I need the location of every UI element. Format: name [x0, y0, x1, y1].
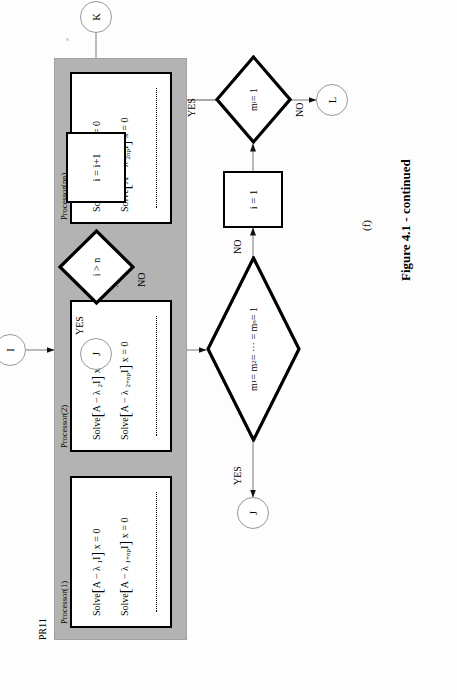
processor-np-vertical-dots [156, 88, 157, 208]
figure-page: PR11 Processor(1) Solve[A − λ 1I] x = 0 … [0, 0, 457, 700]
edge-label-mi-no: NO [294, 103, 305, 117]
processor-2-vertical-dots [156, 316, 157, 436]
connector-entry-I: I [0, 334, 26, 366]
decision-mi-equals-one: mi = 1 [215, 55, 292, 144]
process-box-init: i = 1 [223, 171, 283, 228]
edge-label-mi-yes: YES [186, 98, 197, 117]
processor-box-2: Processor(2) Solve[A − λ 2I] x = 0 Solve… [70, 300, 172, 452]
connector-exit-L: L [316, 84, 348, 116]
processor-2-equation-2: Solve[A − λ 2+npI] x = 0 [116, 342, 132, 440]
processor-title-2: Processor(2) [59, 405, 69, 448]
edge-label-i-gt-n-yes: YES [74, 316, 85, 335]
panel-label-pr11: PR11 [38, 618, 48, 640]
processor-1-vertical-dots [156, 492, 157, 612]
processor-1-equation-2: Solve[A − λ 1+npI] x = 0 [116, 518, 132, 616]
processor-box-1: Processor(1) Solve[A − λ 1I] x = 0 Solve… [70, 476, 172, 628]
connector-entry-K: K [80, 1, 112, 33]
edge-label-i-gt-n-no: NO [136, 273, 147, 287]
decision-i-greater-n: i > n [58, 229, 135, 305]
rotated-figure-canvas: PR11 Processor(1) Solve[A − λ 1I] x = 0 … [0, 0, 457, 700]
edge-label-big-diamond-no: NO [232, 240, 243, 254]
edge-label-big-diamond-yes: YES [232, 466, 243, 485]
connector-exit-J-left: J [237, 497, 269, 529]
subfigure-label: (f) [360, 220, 372, 231]
processor-1-equation-1: Solve[A − λ 1I] x = 0 [88, 529, 104, 616]
figure-caption: Figure 4.1 - continued [398, 159, 414, 281]
process-box-increment: i = i+1 [66, 132, 126, 203]
processor-title-1: Processor(1) [59, 581, 69, 624]
decision-all-multiplicities-one: m1 = m2 = ⋯ = mn = 1 [206, 256, 301, 442]
connector-exit-J-top: J [80, 338, 112, 370]
